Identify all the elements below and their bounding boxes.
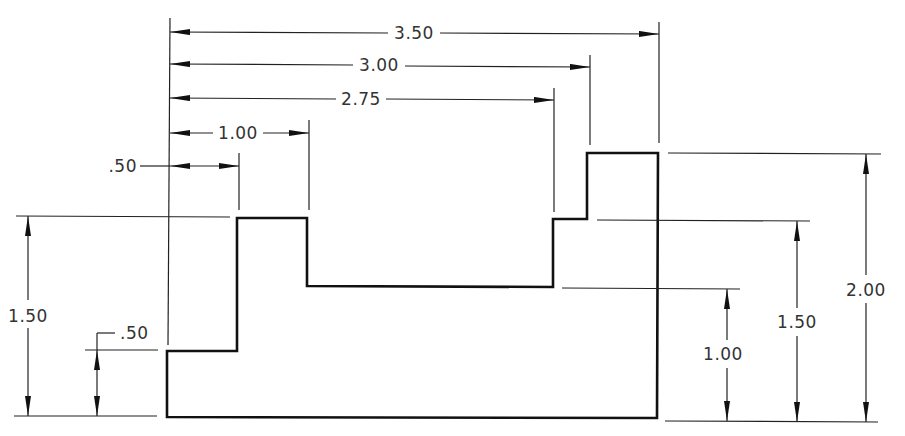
technical-drawing: 3.50 3.00 2.75 1.00 .50 1.50 .50 1.00 <box>0 0 905 436</box>
svg-text:.50: .50 <box>120 323 149 343</box>
svg-text:1.50: 1.50 <box>8 306 48 326</box>
svg-text:2.00: 2.00 <box>846 280 886 300</box>
dim-1-50-right: 1.50 <box>777 221 817 422</box>
dim-2-00-right: 2.00 <box>846 154 886 422</box>
dim-1-50-left: 1.50 <box>8 216 48 416</box>
part-outline <box>167 153 658 418</box>
dim-3-50: 3.50 <box>170 23 659 43</box>
dim-3-00: 3.00 <box>170 55 590 75</box>
dim-1-00: 1.00 <box>170 123 309 143</box>
dim-0-50-vertical: .50 <box>97 323 149 416</box>
svg-text:1.00: 1.00 <box>703 344 743 364</box>
svg-text:1.50: 1.50 <box>777 312 817 332</box>
svg-text:3.50: 3.50 <box>394 23 434 43</box>
svg-text:.50: .50 <box>108 156 137 176</box>
svg-text:3.00: 3.00 <box>359 55 399 75</box>
svg-text:2.75: 2.75 <box>341 89 381 109</box>
dim-2-75: 2.75 <box>170 89 554 109</box>
svg-text:1.00: 1.00 <box>218 123 258 143</box>
dim-1-00-right: 1.00 <box>703 289 743 421</box>
dim-0-50-horizontal: .50 <box>108 156 239 176</box>
